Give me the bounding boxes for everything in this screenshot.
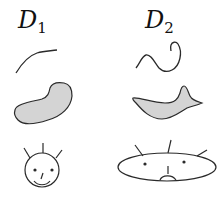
d2-hair-left <box>135 145 143 156</box>
d2-mouth-frown <box>160 176 176 180</box>
d2-face-outline <box>118 153 216 181</box>
d1-nose <box>41 173 43 179</box>
d1-face-outline <box>25 153 59 187</box>
d2-eye-right <box>182 160 185 163</box>
d1-hair-left <box>24 148 30 158</box>
d1-eye-right <box>50 168 53 171</box>
d1-region <box>15 83 72 124</box>
d2-eye-left <box>143 162 146 165</box>
d2-region <box>133 86 202 119</box>
d1-hair-right <box>56 150 62 158</box>
d1-face <box>24 143 62 187</box>
d1-curve <box>16 50 57 73</box>
d2-hair-right <box>197 150 207 156</box>
d2-hair-middle <box>168 140 171 153</box>
d1-mouth-smile <box>34 181 50 185</box>
d2-curve <box>136 42 180 71</box>
diagram-canvas <box>0 0 219 201</box>
d2-face <box>118 140 216 181</box>
d1-eye-left <box>33 168 36 171</box>
